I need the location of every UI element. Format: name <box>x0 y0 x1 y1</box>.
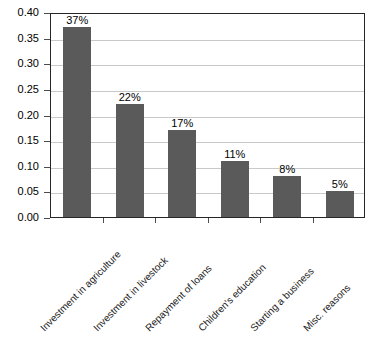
bar-chart: 0.400.350.300.250.200.150.100.050.00 37%… <box>0 0 380 346</box>
bar <box>116 104 144 217</box>
bar-value-label: 22% <box>104 91 157 103</box>
x-axis-category-labels: Investment in agricultureInvestment in l… <box>0 222 380 346</box>
x-axis-category-label: Misc. reasons <box>301 282 352 333</box>
bar-group: 37% <box>51 14 104 217</box>
bar <box>326 191 354 217</box>
y-axis-tick-label: 0.25 <box>18 84 39 95</box>
y-axis-tick-label: 0.30 <box>18 58 39 69</box>
y-axis-tick-label: 0.40 <box>18 7 39 18</box>
y-axis-tick-label: 0.10 <box>18 161 39 172</box>
bar-group: 8% <box>261 14 314 217</box>
bar <box>221 161 249 217</box>
y-axis-tick-label: 0.05 <box>18 186 39 197</box>
y-axis-tick-label: 0.20 <box>18 110 39 121</box>
bars-layer: 37%22%17%11%8%5% <box>51 14 364 217</box>
bar-group: 22% <box>104 14 157 217</box>
bar-value-label: 11% <box>209 148 262 160</box>
bar-value-label: 8% <box>261 163 314 175</box>
bar-value-label: 37% <box>51 14 104 26</box>
bar-group: 5% <box>314 14 367 217</box>
bar-group: 17% <box>156 14 209 217</box>
bar <box>63 27 91 217</box>
bar-value-label: 5% <box>314 178 367 190</box>
plot-area: 37%22%17%11%8%5% <box>50 13 365 218</box>
bar-group: 11% <box>209 14 262 217</box>
bar-value-label: 17% <box>156 117 209 129</box>
y-axis-tick-label: 0.15 <box>18 135 39 146</box>
bar <box>273 176 301 217</box>
bar <box>168 130 196 217</box>
y-axis-tick-label: 0.35 <box>18 33 39 44</box>
